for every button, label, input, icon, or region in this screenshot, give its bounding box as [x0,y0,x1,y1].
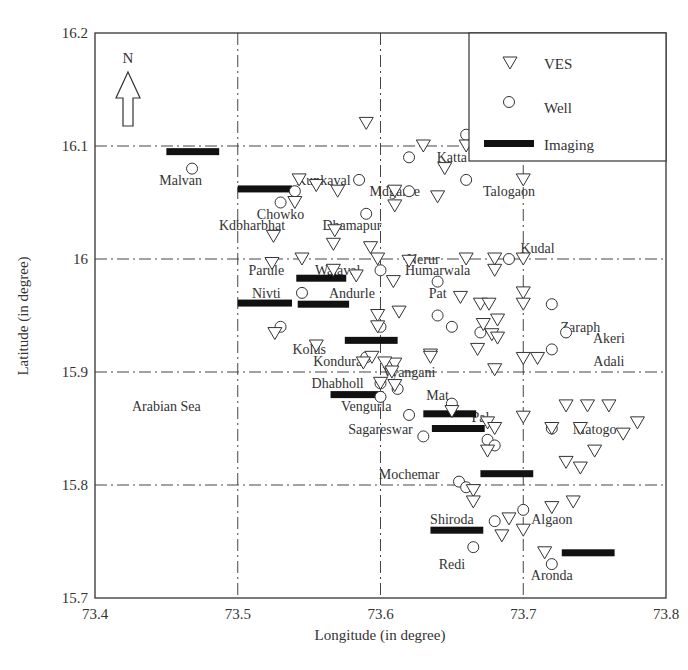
ves-marker [423,351,437,363]
place-label: Shiroda [430,512,474,527]
y-tick-label: 16.2 [62,25,88,41]
ves-marker [559,400,573,412]
ves-marker [630,417,644,429]
well-marker [289,186,300,197]
ves-marker [502,513,516,525]
ves-marker [392,306,406,318]
imaging-bar [430,527,483,534]
well-marker [187,163,198,174]
imaging-bar [345,337,398,344]
well-marker [432,310,443,321]
well-marker [361,208,372,219]
well-marker [404,152,415,163]
ves-marker [516,411,530,423]
legend-well-icon [504,97,515,108]
ves-marker [588,445,602,457]
ves-marker [453,291,467,303]
ves-marker [495,530,509,542]
chart: 15.715.815.91616.116.2 73.473.573.673.77… [0,0,688,670]
y-ticks: 15.715.815.91616.116.2 [62,25,89,606]
place-label: Sagareswar [348,422,413,437]
x-axis-label: Longitude (in degree) [315,627,446,644]
ves-marker [580,400,594,412]
ves-marker [326,238,340,250]
imaging-bar [238,185,292,192]
place-label: Arabian Sea [132,399,202,414]
place-label: Pat [429,286,447,301]
well-marker [546,559,557,570]
place-label: Mochemar [379,467,440,482]
well-marker [546,299,557,310]
north-arrow: N [116,50,140,126]
north-arrow-label: N [123,50,134,66]
legend: VES Well Imaging [469,33,666,161]
x-ticks: 73.473.573.673.773.8 [82,606,679,622]
well-marker [468,542,479,553]
legend-ves-label: VES [544,56,572,72]
well-marker [354,174,365,185]
well-marker [418,431,429,442]
x-tick-label: 73.6 [367,606,394,622]
north-arrow-icon [116,72,140,126]
ves-marker [371,310,385,322]
well-marker [296,287,307,298]
x-tick-label: 73.8 [653,606,679,622]
well-marker [446,321,457,332]
well-marker [518,504,529,515]
ves-marker [531,352,545,364]
imaging-bar [296,275,346,282]
well-marker [275,197,286,208]
ves-marker [359,117,373,129]
place-label: Kondura [313,354,363,369]
y-tick-label: 15.9 [62,364,88,380]
place-label: Dhabholl [312,376,364,391]
ves-marker [268,328,282,340]
x-tick-label: 73.4 [82,606,109,622]
ves-marker [516,352,530,364]
ves-marker [471,343,485,355]
place-label: Malvan [159,173,202,188]
y-tick-label: 15.7 [62,590,89,606]
place-label: Adali [593,354,624,369]
ves-marker [331,185,345,197]
place-label: Aronda [531,568,574,583]
well-marker [461,174,472,185]
ves-marker [516,298,530,310]
imaging-bar [238,300,292,307]
legend-well-label: Well [544,100,572,116]
place-label: Andurle [329,286,375,301]
ves-marker [516,287,530,299]
ves-marker [538,547,552,559]
x-tick-label: 73.5 [225,606,251,622]
ves-marker [481,445,495,457]
imaging-bar [166,148,219,155]
ves-marker [388,200,402,212]
ves-marker [616,428,630,440]
well-marker [561,327,572,338]
place-label: Akeri [593,331,625,346]
y-axis-label: Latitude (in degree) [15,256,32,375]
well-marker [404,186,415,197]
ves-marker [488,264,502,276]
place-label: Parule [248,263,284,278]
place-label: Redi [439,557,466,572]
ves-marker [466,496,480,508]
well-marker [375,391,386,402]
y-tick-label: 16 [73,251,89,267]
well-marker [546,344,557,355]
imaging-bar [298,301,349,308]
well-marker [432,276,443,287]
ves-marker [488,423,502,435]
legend-imaging-icon [484,140,534,147]
ves-marker [438,163,452,175]
imaging-bar [480,470,533,477]
imaging-bar [562,549,615,556]
well-marker [375,265,386,276]
ves-marker [602,400,616,412]
legend-imaging-label: Imaging [544,137,594,153]
ves-marker [559,456,573,468]
well-marker [404,409,415,420]
y-tick-label: 16.1 [62,138,88,154]
place-label: Mat [426,388,449,403]
ves-marker [516,524,530,536]
